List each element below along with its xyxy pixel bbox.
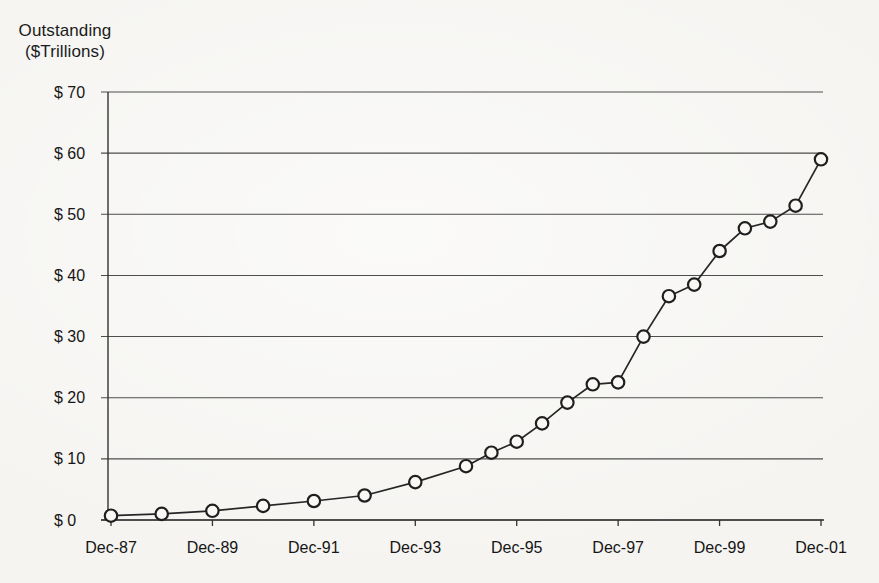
- data-point-Dec-96: [561, 396, 573, 408]
- data-point-Dec-87: [105, 510, 117, 522]
- data-point-Jun-01: [789, 200, 801, 212]
- x-tick-label: Dec-91: [288, 539, 340, 556]
- y-tick-label: $ 0: [54, 512, 76, 529]
- x-tick-label: Dec-99: [694, 539, 746, 556]
- chart-title-line2: ($Trillions): [14, 41, 116, 62]
- data-point-Dec-01: [815, 153, 827, 165]
- y-tick-label: $ 30: [54, 328, 85, 345]
- chart-title-line1: Outstanding: [14, 20, 116, 41]
- data-point-Jun-98: [637, 330, 649, 342]
- y-tick-label: $ 40: [54, 267, 85, 284]
- data-point-Dec-98: [663, 290, 675, 302]
- chart-page: Outstanding ($Trillions) $ 0$ 10$ 20$ 30…: [0, 0, 879, 583]
- data-point-Dec-99: [713, 245, 725, 257]
- data-point-Dec-88: [156, 508, 168, 520]
- data-point-Dec-92: [358, 489, 370, 501]
- x-tick-label: Dec-97: [592, 539, 644, 556]
- data-point-Dec-91: [308, 495, 320, 507]
- x-tick-label: Dec-93: [389, 539, 441, 556]
- y-tick-label: $ 60: [54, 145, 85, 162]
- data-point-Dec-00: [764, 215, 776, 227]
- y-tick-label: $ 70: [54, 84, 85, 101]
- data-point-Jun-99: [688, 278, 700, 290]
- data-point-Dec-95: [511, 436, 523, 448]
- data-point-Dec-89: [206, 505, 218, 517]
- x-tick-label: Dec-95: [491, 539, 543, 556]
- x-tick-label: Dec-01: [795, 539, 847, 556]
- y-tick-label: $ 20: [54, 389, 85, 406]
- data-point-Dec-93: [409, 476, 421, 488]
- data-point-Dec-97: [612, 376, 624, 388]
- line-chart-canvas: $ 0$ 10$ 20$ 30$ 40$ 50$ 60$ 70Dec-87Dec…: [0, 0, 879, 583]
- data-point-Jun-97: [587, 378, 599, 390]
- x-tick-label: Dec-87: [85, 539, 137, 556]
- data-point-Jun-00: [739, 222, 751, 234]
- chart-title: Outstanding ($Trillions): [14, 20, 116, 62]
- y-tick-label: $ 10: [54, 450, 85, 467]
- y-tick-label: $ 50: [54, 206, 85, 223]
- data-point-Dec-94: [460, 460, 472, 472]
- data-point-Jun-95: [485, 447, 497, 459]
- x-tick-label: Dec-89: [187, 539, 239, 556]
- data-point-Jun-96: [536, 417, 548, 429]
- data-point-Dec-90: [257, 500, 269, 512]
